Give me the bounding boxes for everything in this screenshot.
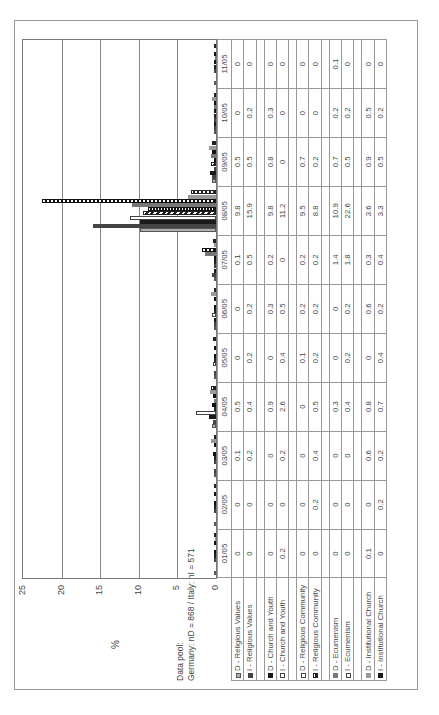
table-row: I - Religious Values000.20.40.20.20.515.… (244, 40, 256, 681)
table-cell: 0 (276, 88, 288, 137)
table-cell: 0.2 (297, 284, 309, 333)
bar (42, 199, 216, 203)
legend-swatch-icon (280, 673, 285, 678)
table-cell: 3.3 (374, 186, 386, 235)
bar (211, 386, 216, 390)
table-cell: 0.1 (297, 333, 309, 382)
table-cell: 0.2 (264, 235, 276, 284)
table-cell: 0.5 (374, 137, 386, 186)
table-cell: 0.8 (264, 137, 276, 186)
bar (214, 554, 216, 558)
bar (214, 81, 216, 85)
bar (214, 318, 216, 322)
bar (214, 297, 216, 301)
table-cell: 0.4 (374, 333, 386, 382)
series-label: D - Institutional Church (364, 592, 373, 671)
bar (214, 522, 216, 526)
bar (214, 277, 216, 281)
table-cell: 0.2 (342, 88, 354, 137)
table-cell: 0 (264, 431, 276, 480)
bar-group (23, 431, 216, 480)
table-cell: 0.2 (276, 529, 288, 578)
table-cell: 0.2 (309, 235, 321, 284)
bar (140, 228, 216, 232)
table-cell: 0.3 (264, 284, 276, 333)
bar (211, 439, 216, 443)
table-cell: 0.1 (232, 235, 244, 284)
table-cell: 0 (309, 88, 321, 137)
table-cell: 0.2 (374, 431, 386, 480)
bar (205, 252, 216, 256)
legend-swatch-icon (378, 673, 383, 678)
month-header: 06/05 (218, 284, 232, 333)
table-cell: 0.4 (276, 333, 288, 382)
table-cell: 0.7 (329, 137, 341, 186)
table-cell: 0.2 (309, 333, 321, 382)
table-cell: 9.8 (232, 186, 244, 235)
bar (214, 69, 216, 73)
table-cell: 0 (309, 40, 321, 89)
bar (214, 443, 216, 447)
table-cell: 0.4 (309, 431, 321, 480)
table-cell: 0.3 (362, 235, 374, 284)
bar (214, 550, 216, 554)
legend-swatch-icon (248, 673, 253, 678)
table-cell: 0 (276, 40, 288, 89)
table-cell: 3.6 (362, 186, 374, 235)
bar (214, 269, 216, 273)
table-row: I - Church and Youth0.200.22.60.40.5011.… (276, 40, 288, 681)
bar (214, 305, 216, 309)
table-cell: 0 (342, 480, 354, 529)
bar (209, 146, 216, 150)
table-cell: 0 (297, 88, 309, 137)
bar (214, 44, 216, 48)
table-cell: 0 (362, 40, 374, 89)
bar (214, 501, 216, 505)
table-cell: 0.9 (264, 382, 276, 431)
table-cell: 0.5 (309, 382, 321, 431)
bar (209, 415, 216, 419)
bar (212, 175, 216, 179)
bar-group (23, 382, 216, 431)
table-cell: 0.2 (309, 284, 321, 333)
bar (214, 288, 216, 292)
bar (214, 126, 216, 130)
bar (212, 403, 216, 407)
data-table: 01/0502/0503/0504/0505/0506/0507/0508/05… (217, 39, 387, 681)
month-header: 05/05 (218, 333, 232, 382)
table-cell: 0 (264, 40, 276, 89)
table-cell: 0 (276, 480, 288, 529)
legend-swatch-icon (313, 673, 318, 678)
bar (213, 337, 216, 341)
bar (214, 354, 216, 358)
month-header: 11/05 (218, 40, 232, 89)
series-label: I - Institutional Church (376, 595, 385, 671)
legend-swatch-icon (301, 673, 306, 678)
series-label: D - Church and Youth (266, 596, 275, 671)
bar (213, 452, 216, 456)
bar (214, 492, 216, 496)
table-cell: 10.9 (329, 186, 341, 235)
bar (214, 473, 216, 477)
bar (214, 101, 216, 105)
table-cell: 0.5 (232, 382, 244, 431)
bar (214, 244, 216, 248)
month-header: 08/05 (218, 186, 232, 235)
bar (215, 56, 216, 60)
y-tick-label: 15 (94, 585, 104, 605)
table-cell: 0.4 (244, 382, 256, 431)
bar (93, 224, 216, 228)
y-tick-label: 10 (133, 585, 143, 605)
table-cell: 0 (342, 431, 354, 480)
table-cell: 1.4 (329, 235, 341, 284)
bar (214, 52, 216, 56)
month-header: 04/05 (218, 382, 232, 431)
bar (148, 207, 216, 211)
bar (214, 460, 216, 464)
table-cell: 2.6 (276, 382, 288, 431)
table-cell: 0.5 (232, 137, 244, 186)
bar (214, 435, 216, 439)
bar (214, 533, 216, 537)
table-cell: 0.2 (244, 333, 256, 382)
bar (214, 158, 216, 162)
